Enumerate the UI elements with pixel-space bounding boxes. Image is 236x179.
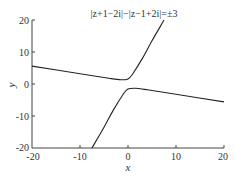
y-tick-label: 10 — [19, 47, 29, 58]
y-tick-label: -10 — [16, 111, 29, 122]
x-tick-label: 10 — [171, 151, 181, 162]
x-tick-label: -10 — [73, 151, 86, 162]
hyperbola-chart: |z+1−2i|−|z−1+2i|=±3 20 10 0 -10 -20 -20… — [0, 0, 236, 179]
x-axis-label: x — [125, 161, 131, 173]
y-tick-label: 20 — [19, 15, 29, 26]
upper-branch-curve — [32, 20, 164, 80]
x-tick-label: 20 — [218, 151, 228, 162]
chart-title: |z+1−2i|−|z−1+2i|=±3 — [91, 8, 178, 19]
y-axis-label: y — [5, 82, 17, 88]
y-tick-label: 0 — [24, 79, 29, 90]
x-tick-label: -20 — [26, 151, 39, 162]
lower-branch-curve — [92, 88, 224, 148]
